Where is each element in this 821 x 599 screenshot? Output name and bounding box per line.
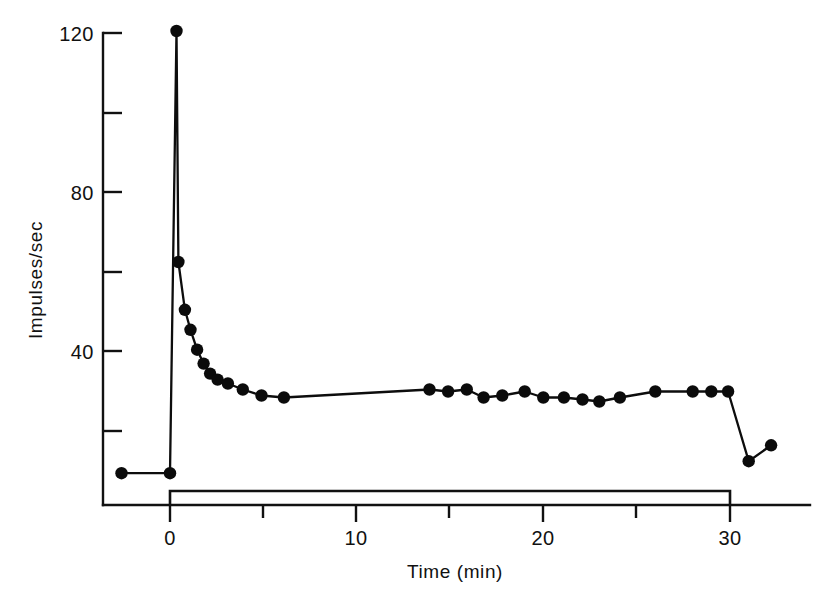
data-point	[576, 393, 588, 405]
x-axis-tick-labels: 0 10 20 30	[164, 527, 741, 549]
data-point	[170, 25, 182, 37]
x-axis-title: Time (min)	[407, 561, 503, 582]
y-axis-tick-labels: 120 80 40	[59, 23, 94, 363]
x-axis-ticks	[170, 505, 730, 522]
chart-canvas: 120 80 40 Impulses/sec 0 10 20 30 Time (…	[0, 0, 821, 599]
data-point	[222, 377, 234, 389]
data-trace-group	[122, 31, 772, 473]
data-point	[519, 385, 531, 397]
figure-root: 120 80 40 Impulses/sec 0 10 20 30 Time (…	[0, 0, 821, 599]
data-point	[537, 391, 549, 403]
data-point	[179, 304, 191, 316]
data-point	[743, 455, 755, 467]
data-point	[765, 439, 777, 451]
drug-application-bar	[170, 491, 730, 505]
data-point	[687, 385, 699, 397]
data-point	[705, 385, 717, 397]
y-axis-title: Impulses/sec	[25, 221, 46, 339]
data-point	[423, 383, 435, 395]
data-point	[184, 324, 196, 336]
data-point	[278, 391, 290, 403]
data-point	[237, 383, 249, 395]
y-axis-ticks	[103, 33, 122, 431]
data-point	[722, 385, 734, 397]
x-tick-label-10: 10	[344, 527, 367, 549]
data-point	[558, 391, 570, 403]
axes-group	[103, 33, 810, 505]
data-point	[461, 383, 473, 395]
firing-rate-trace	[122, 31, 772, 473]
y-tick-label-40: 40	[71, 341, 94, 363]
y-tick-label-120: 120	[59, 23, 94, 45]
x-tick-label-0: 0	[164, 527, 176, 549]
data-point	[593, 395, 605, 407]
data-point	[255, 389, 267, 401]
data-point	[614, 391, 626, 403]
data-point	[164, 467, 176, 479]
data-point	[477, 391, 489, 403]
data-point-group	[115, 25, 777, 480]
data-point	[172, 256, 184, 268]
x-tick-label-30: 30	[718, 527, 741, 549]
y-tick-label-80: 80	[71, 182, 94, 204]
data-point	[496, 389, 508, 401]
data-point	[191, 344, 203, 356]
data-point	[115, 467, 127, 479]
data-point	[442, 385, 454, 397]
data-point	[649, 385, 661, 397]
x-tick-label-20: 20	[531, 527, 554, 549]
